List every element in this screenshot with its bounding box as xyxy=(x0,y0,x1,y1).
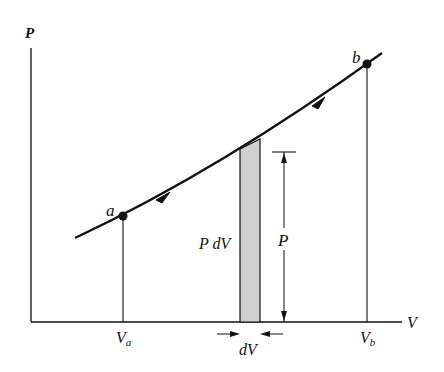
dv-right-arrow-icon xyxy=(260,331,270,337)
pdv-label: P dV xyxy=(198,235,232,252)
pv-diagram: P V a b P P dV Va Vb dV xyxy=(0,0,444,372)
pdv-strip xyxy=(240,139,260,322)
p-arrow-down-icon xyxy=(281,311,287,321)
dv-label: dV xyxy=(239,341,259,358)
process-curve xyxy=(75,53,382,238)
point-b-label: b xyxy=(352,48,361,67)
dv-left-arrow-icon xyxy=(230,331,240,337)
point-a-label: a xyxy=(106,201,115,220)
va-label: Va xyxy=(116,329,132,348)
point-a xyxy=(119,212,128,221)
direction-arrow-2-icon xyxy=(312,97,325,109)
vb-label: Vb xyxy=(360,329,376,348)
p-dimension-label: P xyxy=(277,231,288,250)
p-arrow-up-icon xyxy=(281,153,287,163)
point-b xyxy=(363,60,372,69)
y-axis-label: P xyxy=(25,25,35,41)
pv-diagram-svg: P V a b P P dV Va Vb dV xyxy=(0,0,444,372)
x-axis-label: V xyxy=(407,314,419,331)
